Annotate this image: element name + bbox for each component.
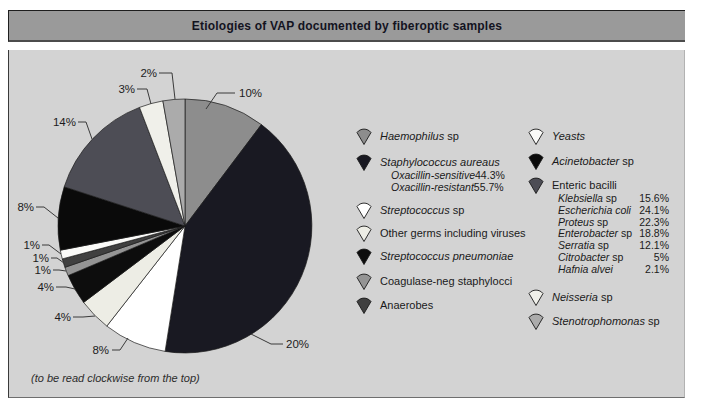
pie-percent-label-haemophilus: 10% — [239, 87, 262, 99]
legend-sub-row-enteric-bacilli: Citrobacter sp5% — [558, 251, 669, 263]
wedge-icon-coagulase-neg-staphylocci — [354, 271, 374, 291]
legend-text-run: Stenotrophomonas — [552, 315, 645, 327]
legend-text-run: Anaerobes — [380, 299, 433, 311]
legend-item-anaerobes: Anaerobes — [354, 295, 433, 315]
legend-label-neisseria: Neisseria sp — [552, 291, 613, 303]
leader-line-other-germs — [73, 316, 95, 317]
legend-text-run: Acinetobacter — [552, 155, 619, 167]
legend-text-run: Neisseria — [552, 291, 598, 303]
legend-sub-row-staphylococcus-aureus: Oxacillin-resistant55.7% — [391, 181, 498, 193]
legend-text-run: Haemophilus — [380, 130, 444, 142]
legend-text-run: Other germs including viruses — [380, 227, 526, 239]
wedge-icon-yeasts — [526, 126, 546, 146]
wedge-icon-staphylococcus-aureus — [354, 152, 374, 172]
legend-sub-value: 18.8% — [639, 227, 669, 239]
figure-page: { "title": "Etiologies of VAP documented… — [0, 0, 702, 407]
figure-title-bar: Etiologies of VAP documented by fiberopt… — [8, 10, 685, 42]
leader-line-enteric-bacilli — [78, 122, 92, 139]
legend-sub-row-enteric-bacilli: Escherichia coli24.1% — [558, 204, 669, 216]
leader-line-streptococcus-pneumoniae — [56, 287, 75, 289]
legend-text-run: sp — [450, 204, 465, 216]
legend-sub-value: 55.7% — [474, 181, 504, 193]
legend-label-haemophilus: Haemophilus sp — [380, 130, 459, 142]
wedge-icon-haemophilus — [354, 126, 374, 146]
legend-text-run: Enterobacter — [558, 227, 618, 239]
legend-text-run: Yeasts — [552, 130, 585, 142]
pie-percent-label-other-germs: 4% — [54, 311, 71, 323]
wedge-icon-streptococcus-pneumoniae — [354, 246, 374, 266]
wedge-icon-anaerobes — [354, 295, 374, 315]
chart-panel: 10%20%8%4%4%1%1%1%8%14%3%2% Haemophilus … — [8, 50, 685, 398]
leader-line-stenotrophomonas — [159, 73, 175, 99]
leader-line-coagulase-neg-staphylocci — [53, 270, 66, 271]
legend-text-run: sp — [444, 130, 459, 142]
legend-sub-value: 2.1% — [645, 263, 669, 275]
legend-sub-name: Serratia sp — [558, 239, 639, 251]
pie-chart: 10%20%8%4%4%1%1%1%8%14%3%2% — [9, 50, 354, 370]
legend-label-staphylococcus-aureus: Staphylococcus aureaus — [380, 156, 500, 168]
legend-text-run: sp — [618, 227, 632, 239]
reading-order-note: (to be read clockwise from the top) — [31, 372, 200, 384]
legend-item-haemophilus: Haemophilus sp — [354, 126, 459, 146]
pie-percent-label-acinetobacter: 8% — [17, 201, 34, 213]
legend-sub-value: 5% — [654, 251, 669, 263]
wedge-icon-acinetobacter — [526, 151, 546, 171]
legend-label-yeasts: Yeasts — [552, 130, 585, 142]
legend-text-run: Escherichia coli — [558, 204, 631, 216]
legend-text-run: sp — [603, 192, 617, 204]
legend-sub-row-enteric-bacilli: Enterobacter sp18.8% — [558, 227, 669, 239]
legend-label-acinetobacter: Acinetobacter sp — [552, 155, 634, 167]
leader-line-staphylococcus-aureus — [251, 334, 283, 344]
legend-sub-name: Oxacillin-resistant — [391, 181, 474, 193]
legend-label-stenotrophomonas: Stenotrophomonas sp — [552, 315, 660, 327]
pie-percent-label-enteric-bacilli: 14% — [53, 116, 76, 128]
legend-text-run: sp — [595, 239, 609, 251]
figure-title: Etiologies of VAP documented by fiberopt… — [192, 19, 502, 33]
wedge-icon-enteric-bacilli — [526, 175, 546, 195]
legend-item-acinetobacter: Acinetobacter sp — [526, 151, 634, 171]
legend-sub-value: 15.6% — [639, 192, 669, 204]
legend-text-run: sp — [598, 291, 613, 303]
pie-percent-label-coagulase-neg-staphylocci: 1% — [34, 264, 51, 276]
legend-text-run: sp — [619, 155, 634, 167]
legend-label-streptococcus-pneumoniae: Streptococcus pneumoniae — [380, 250, 513, 262]
legend-sub-name: Klebsiella sp — [558, 192, 639, 204]
wedge-icon-neisseria — [526, 287, 546, 307]
leader-line-streptococcus — [112, 338, 128, 350]
legend-label-coagulase-neg-staphylocci: Coagulase-neg staphylocci — [380, 275, 512, 287]
legend-text-run: sp — [609, 251, 623, 263]
legend-sub-name: Escherichia coli — [558, 204, 639, 216]
legend-sub-row-enteric-bacilli: Serratia sp12.1% — [558, 239, 669, 251]
legend-item-other-germs: Other germs including viruses — [354, 223, 526, 243]
legend-text-run: Hafnia alvei — [558, 263, 613, 275]
legend-sub-value: 44.3% — [475, 169, 505, 181]
legend-text-run: Citrobacter — [558, 251, 609, 263]
legend-item-neisseria: Neisseria sp — [526, 287, 613, 307]
legend-item-coagulase-neg-staphylocci: Coagulase-neg staphylocci — [354, 271, 512, 291]
wedge-icon-stenotrophomonas — [526, 311, 546, 331]
wedge-icon-streptococcus — [354, 200, 374, 220]
legend-text-run: sp — [645, 315, 660, 327]
legend-label-other-germs: Other germs including viruses — [380, 227, 526, 239]
pie-percent-label-stenotrophomonas: 2% — [140, 67, 157, 79]
legend-text-run: Serratia — [558, 239, 595, 251]
pie-percent-label-yeasts: 1% — [23, 239, 40, 251]
legend-sub-name: Enterobacter sp — [558, 227, 639, 239]
legend-text-run: Streptococcus — [380, 204, 450, 216]
leader-line-neisseria — [137, 89, 151, 104]
legend-sub-value: 24.1% — [639, 204, 669, 216]
pie-percent-label-anaerobes: 1% — [32, 252, 49, 264]
legend-sub-row-enteric-bacilli: Hafnia alvei2.1% — [558, 263, 669, 275]
legend-label-enteric-bacilli: Enteric bacilli — [552, 179, 617, 191]
legend-item-streptococcus-pneumoniae: Streptococcus pneumoniae — [354, 246, 513, 266]
legend-sub-name: Citrobacter sp — [558, 251, 654, 263]
legend-text-run: Staphylococcus aureaus — [380, 156, 500, 168]
wedge-icon-other-germs — [354, 223, 374, 243]
legend-item-streptococcus: Streptococcus sp — [354, 200, 464, 220]
pie-percent-label-streptococcus-pneumoniae: 4% — [37, 281, 54, 293]
pie-percent-label-staphylococcus-aureus: 20% — [286, 338, 309, 350]
leader-line-acinetobacter — [36, 207, 58, 218]
pie-percent-label-neisseria: 3% — [118, 83, 135, 95]
legend-label-anaerobes: Anaerobes — [380, 299, 433, 311]
legend-item-stenotrophomonas: Stenotrophomonas sp — [526, 311, 660, 331]
